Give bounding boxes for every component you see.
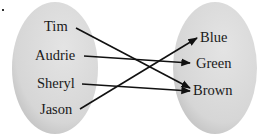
mapping-diagram: Tim Audrie Sheryl Jason Blue Green Brown [0,0,259,138]
domain-item-audrie: Audrie [35,47,75,63]
range-item-green: Green [196,55,232,71]
arrow-sheryl-brown [82,84,190,91]
range-item-brown: Brown [193,82,233,98]
stray-mark [2,9,4,11]
domain-item-jason: Jason [40,101,73,117]
range-item-blue: Blue [200,29,227,45]
domain-item-tim: Tim [44,18,68,34]
domain-item-sheryl: Sheryl [37,75,75,91]
